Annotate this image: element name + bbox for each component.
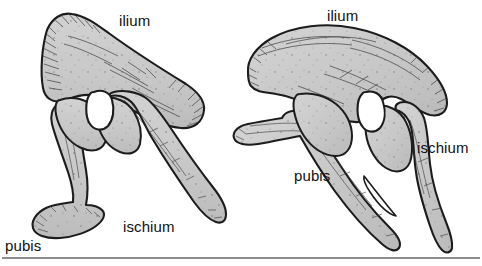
label-left-pubis: pubis — [5, 238, 41, 253]
right-acetabulum-opening — [358, 91, 385, 131]
label-left-ischium: ischium — [123, 219, 175, 234]
left-pelvis-illustration — [0, 0, 482, 266]
label-left-ilium: ilium — [119, 13, 150, 28]
label-right-ischium: ischium — [417, 140, 469, 155]
label-right-pubis: pubis — [294, 168, 330, 183]
figure-bottom-rule — [2, 257, 480, 259]
figure-root: ilium pubis ischium ilium pubis ischium — [0, 0, 482, 266]
left-acetabulum-opening — [86, 91, 113, 130]
left-specimen-group — [33, 13, 226, 238]
label-right-ilium: ilium — [327, 8, 358, 23]
